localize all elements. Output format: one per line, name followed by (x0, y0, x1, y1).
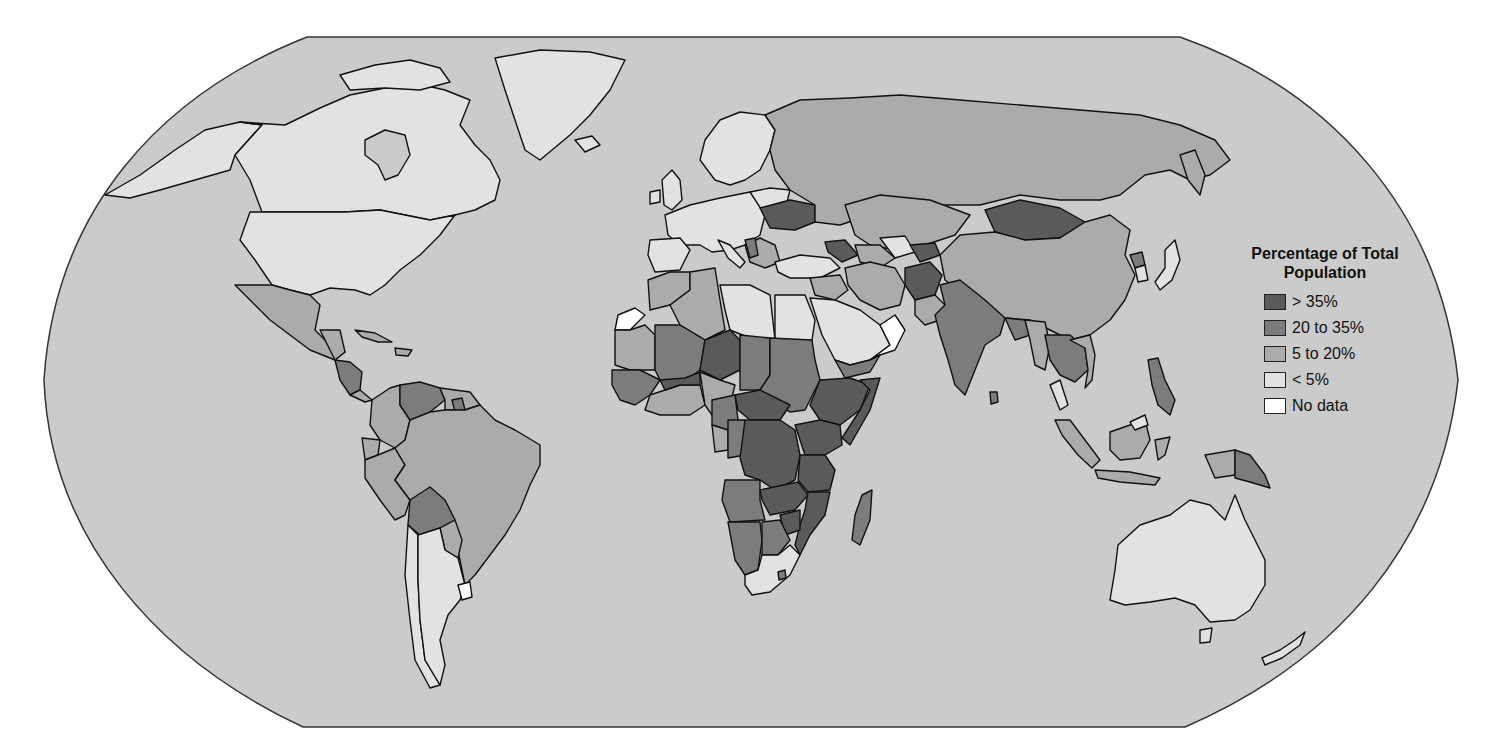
swatch-20-35 (1264, 320, 1286, 336)
legend-item-20-35: 20 to 35% (1264, 318, 1418, 338)
legend-label: No data (1292, 397, 1348, 415)
legend-title-line2: Population (1232, 263, 1418, 282)
legend-item-5-20: 5 to 20% (1264, 344, 1418, 364)
region-hispaniola (395, 348, 412, 356)
region-gabon (712, 425, 728, 452)
swatch-5-20 (1264, 346, 1286, 362)
legend-items: > 35% 20 to 35% 5 to 20% < 5% No data (1264, 292, 1418, 416)
region-south-korea (1135, 265, 1148, 282)
region-tasmania (1200, 628, 1212, 643)
region-angola (722, 480, 765, 522)
swatch-gt35 (1264, 294, 1286, 310)
legend-title-line1: Percentage of Total (1232, 244, 1418, 263)
legend-title: Percentage of Total Population (1232, 244, 1418, 282)
legend-item-no-data: No data (1264, 396, 1418, 416)
legend-label: > 35% (1292, 293, 1338, 311)
legend-label: 20 to 35% (1292, 319, 1364, 337)
region-lesotho (778, 570, 786, 580)
legend-label: 5 to 20% (1292, 345, 1355, 363)
region-ireland (650, 190, 660, 204)
legend-item-gt35: > 35% (1264, 292, 1418, 312)
swatch-lt5 (1264, 372, 1286, 388)
legend: Percentage of Total Population > 35% 20 … (1232, 244, 1418, 422)
legend-item-lt5: < 5% (1264, 370, 1418, 390)
region-sri-lanka (990, 392, 998, 404)
region-tanzania (798, 455, 835, 492)
swatch-no-data (1264, 398, 1286, 414)
legend-label: < 5% (1292, 371, 1329, 389)
region-mauritania (615, 325, 655, 370)
